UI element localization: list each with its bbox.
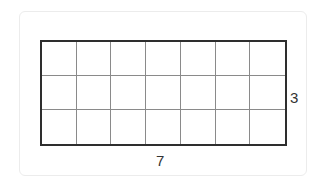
grid-cell (111, 110, 146, 144)
grid-cell (181, 42, 216, 76)
rectangle-grid (40, 40, 287, 146)
height-label: 3 (290, 90, 298, 105)
grid-cell (42, 110, 77, 144)
grid-cell (216, 110, 251, 144)
grid-cell (77, 42, 112, 76)
grid-cell (181, 110, 216, 144)
grid-cell (42, 42, 77, 76)
grid-cell (146, 42, 181, 76)
grid-cell (250, 110, 285, 144)
grid-cell (111, 76, 146, 110)
grid-cell (146, 110, 181, 144)
grid-cell (250, 76, 285, 110)
grid-cell (146, 76, 181, 110)
grid-cell (216, 42, 251, 76)
grid-cell (181, 76, 216, 110)
grid-cell (111, 42, 146, 76)
grid-cell (250, 42, 285, 76)
grid-cell (77, 76, 112, 110)
grid-cell (216, 76, 251, 110)
width-label: 7 (156, 153, 164, 168)
grid-cell (42, 76, 77, 110)
grid-cell (77, 110, 112, 144)
